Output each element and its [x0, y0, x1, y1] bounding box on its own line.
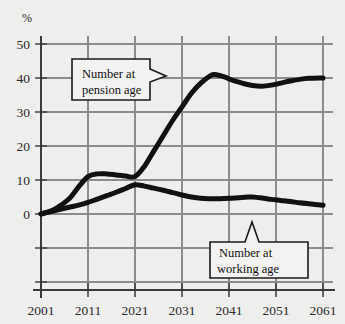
population-projection-chart: % 50403020100 20012011202120312041205120… — [0, 0, 345, 324]
x-tick-label: 2031 — [169, 303, 196, 318]
y-tick-label: 20 — [17, 139, 31, 154]
y-tick-label: 0 — [23, 207, 30, 222]
x-tick-label: 2051 — [263, 303, 290, 318]
chart-svg: % 50403020100 20012011202120312041205120… — [0, 0, 345, 324]
y-tick-label: 10 — [17, 173, 31, 188]
y-tick-label: 30 — [17, 105, 31, 120]
x-tick-label: 2001 — [28, 303, 55, 318]
working-callout-line2: working age — [217, 262, 280, 276]
x-tick-label: 2021 — [122, 303, 149, 318]
y-axis-unit-label: % — [22, 11, 32, 25]
x-tick-label: 2061 — [310, 303, 337, 318]
pension-callout-line2: pension age — [82, 83, 142, 97]
x-tick-label: 2011 — [75, 303, 102, 318]
x-tick-label: 2041 — [216, 303, 243, 318]
pension-callout-line1: Number at — [82, 67, 136, 81]
y-tick-label: 40 — [17, 71, 31, 86]
y-tick-label: 50 — [17, 37, 31, 52]
working-callout-line1: Number at — [219, 246, 273, 260]
